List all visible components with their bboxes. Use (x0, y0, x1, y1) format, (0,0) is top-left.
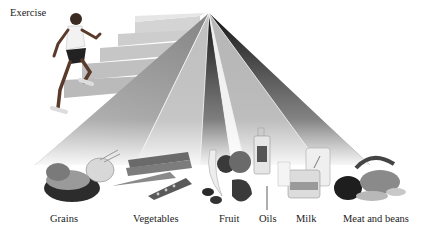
label-meat-and-beans: Meat and beans (343, 214, 409, 225)
exercise-person-icon (52, 13, 100, 112)
label-oils: Oils (259, 214, 277, 225)
pyramid-graphic (0, 0, 425, 239)
label-vegetables: Vegetables (133, 214, 178, 225)
label-milk: Milk (296, 214, 316, 225)
food-pyramid-diagram: Exercise Grains Vegetables Fruit Oils Mi… (0, 0, 425, 239)
exercise-label: Exercise (10, 8, 46, 19)
oils-bottle-icon (254, 128, 270, 210)
fruit-foods-icon (202, 150, 252, 204)
label-grains: Grains (50, 214, 78, 225)
label-fruit: Fruit (219, 214, 239, 225)
